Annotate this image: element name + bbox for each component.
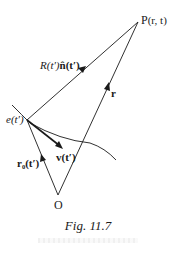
diagram-figure xyxy=(0,0,176,255)
label-R-n-hat: R(t′)n̂(t′) xyxy=(40,60,80,71)
label-r0: r₀(t′) xyxy=(17,158,39,169)
label-point-P: P(r, t) xyxy=(141,14,167,26)
vector-r-arrow-icon xyxy=(104,82,110,91)
vector-r-line xyxy=(58,22,138,195)
label-v: v(t′) xyxy=(56,152,76,163)
label-n-hat: n̂(t′) xyxy=(60,59,80,71)
scan-noise xyxy=(38,238,138,243)
label-P-letter: P xyxy=(141,13,148,27)
label-v-text: v(t′) xyxy=(56,151,76,163)
label-e: e(t′) xyxy=(6,114,24,125)
label-P-args: (r, t) xyxy=(148,14,167,26)
label-r: r xyxy=(111,88,116,99)
label-R: R(t′) xyxy=(40,59,60,71)
label-origin-O: O xyxy=(54,199,63,211)
label-r0-text: r₀(t′) xyxy=(17,157,39,169)
vector-r0-arrow-icon xyxy=(40,154,46,162)
figure-caption: Fig. 11.7 xyxy=(0,218,176,234)
